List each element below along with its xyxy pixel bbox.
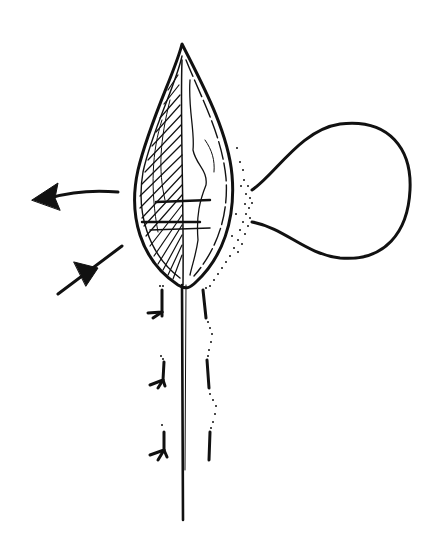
- illustration: [0, 0, 434, 536]
- branch-appendage-2: [150, 362, 165, 388]
- stippled-particles: [159, 147, 253, 429]
- stalk-side-marks: [203, 290, 210, 460]
- outflow-arrow: [32, 183, 118, 210]
- branch-appendage-3: [150, 432, 167, 460]
- inflow-arrow: [58, 246, 122, 294]
- balloon-sac: [252, 123, 410, 258]
- branch-appendage-1: [148, 290, 162, 318]
- leaf-blade: [135, 44, 233, 288]
- stalk: [182, 285, 186, 520]
